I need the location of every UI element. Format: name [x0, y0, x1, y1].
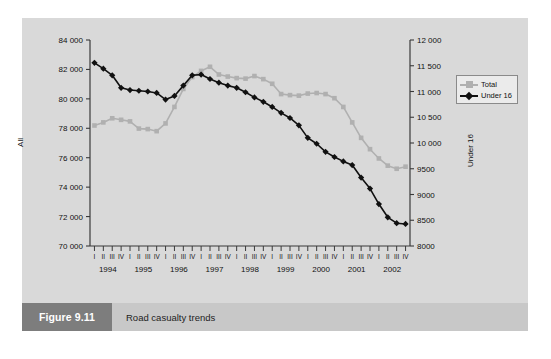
svg-text:III: III	[323, 253, 329, 260]
svg-text:12 000: 12 000	[417, 36, 442, 45]
svg-text:I: I	[378, 253, 380, 260]
svg-text:II: II	[173, 253, 177, 260]
svg-text:II: II	[350, 253, 354, 260]
data-point	[110, 116, 115, 121]
y-axis-left-title: All	[16, 138, 25, 147]
data-point	[216, 80, 222, 86]
svg-text:9000: 9000	[417, 191, 435, 200]
svg-text:10 000: 10 000	[417, 139, 442, 148]
data-point	[394, 166, 399, 171]
svg-text:I: I	[94, 253, 96, 260]
svg-text:IV: IV	[403, 253, 410, 260]
svg-text:8500: 8500	[417, 216, 435, 225]
data-point	[225, 74, 230, 79]
svg-text:IV: IV	[225, 253, 232, 260]
data-point	[145, 88, 151, 94]
data-point	[207, 76, 213, 82]
data-point	[359, 136, 364, 141]
data-point	[305, 91, 310, 96]
svg-text:III: III	[145, 253, 151, 260]
data-point	[385, 163, 390, 168]
svg-text:11 500: 11 500	[417, 62, 441, 71]
data-point	[341, 105, 346, 110]
svg-text:IV: IV	[367, 253, 374, 260]
svg-text:1995: 1995	[134, 265, 152, 274]
svg-text:I: I	[307, 253, 309, 260]
data-point	[297, 93, 302, 98]
svg-text:III: III	[358, 253, 364, 260]
svg-text:9500: 9500	[417, 165, 435, 174]
data-point	[332, 96, 337, 101]
svg-text:I: I	[236, 253, 238, 260]
svg-text:10 500: 10 500	[417, 113, 442, 122]
svg-text:1997: 1997	[206, 265, 224, 274]
chart-plate: 70 00072 00074 00076 00078 00080 00082 0…	[22, 18, 528, 303]
svg-text:IV: IV	[331, 253, 338, 260]
figure-caption-bar: Figure 9.11 Road casualty trends	[22, 303, 528, 331]
svg-text:2001: 2001	[348, 265, 366, 274]
data-point	[136, 88, 142, 94]
data-point	[314, 91, 319, 96]
y-axis-right-title: Under 16	[466, 134, 475, 167]
svg-text:III: III	[394, 253, 400, 260]
figure-number-box: Figure 9.11	[22, 303, 112, 331]
svg-text:80 000: 80 000	[59, 95, 84, 104]
svg-text:70 000: 70 000	[59, 242, 84, 251]
svg-text:IV: IV	[118, 253, 125, 260]
svg-text:1999: 1999	[277, 265, 295, 274]
data-point	[208, 64, 213, 69]
svg-text:IV: IV	[189, 253, 196, 260]
svg-text:82 000: 82 000	[59, 65, 84, 74]
legend-diamond-marker-icon	[460, 91, 478, 100]
svg-text:1996: 1996	[170, 265, 188, 274]
svg-text:11 000: 11 000	[417, 88, 441, 97]
x-axis-ticks: IIIIIIIVIIIIIIIVIIIIIIIVIIIIIIIVIIIIIIIV…	[94, 246, 410, 274]
svg-text:III: III	[216, 253, 222, 260]
data-point	[403, 164, 408, 169]
svg-text:II: II	[137, 253, 141, 260]
data-point	[145, 127, 150, 132]
svg-text:III: III	[110, 253, 116, 260]
svg-text:III: III	[287, 253, 293, 260]
data-point	[119, 118, 124, 123]
svg-text:1994: 1994	[99, 265, 117, 274]
svg-text:84 000: 84 000	[59, 36, 84, 45]
series-under-16	[91, 60, 408, 227]
legend-item[interactable]: Total	[460, 79, 514, 90]
data-point	[127, 87, 133, 93]
data-point	[243, 76, 248, 81]
svg-text:III: III	[252, 253, 258, 260]
svg-text:78 000: 78 000	[59, 124, 84, 133]
svg-text:II: II	[315, 253, 319, 260]
y-axis-right-ticks: 800085009000950010 00010 50011 00011 500…	[410, 36, 442, 251]
svg-text:I: I	[271, 253, 273, 260]
legend-label: Total	[481, 80, 497, 89]
svg-text:III: III	[181, 253, 187, 260]
data-point	[163, 121, 168, 126]
plot-area: 70 00072 00074 00076 00078 00080 00082 0…	[22, 18, 528, 303]
svg-text:1998: 1998	[241, 265, 259, 274]
chart-svg: 70 00072 00074 00076 00078 00080 00082 0…	[22, 18, 528, 303]
svg-text:I: I	[165, 253, 167, 260]
svg-text:II: II	[386, 253, 390, 260]
svg-text:8000: 8000	[417, 242, 435, 251]
svg-text:II: II	[208, 253, 212, 260]
legend-square-marker-icon	[460, 80, 478, 89]
data-point	[270, 81, 275, 86]
figure-number-label: Figure 9.11	[39, 311, 95, 323]
svg-text:II: II	[279, 253, 283, 260]
svg-text:II: II	[244, 253, 248, 260]
data-point	[137, 126, 142, 131]
data-point	[172, 105, 177, 110]
data-point	[234, 76, 239, 81]
data-point	[101, 120, 106, 125]
svg-text:76 000: 76 000	[59, 154, 84, 163]
legend-item[interactable]: Under 16	[460, 90, 514, 101]
figure-container: 70 00072 00074 00076 00078 00080 00082 0…	[0, 0, 551, 359]
data-point	[252, 74, 257, 79]
data-point	[92, 123, 97, 128]
data-point	[154, 129, 159, 134]
legend-label: Under 16	[481, 91, 512, 100]
data-point	[402, 221, 408, 227]
svg-text:I: I	[200, 253, 202, 260]
